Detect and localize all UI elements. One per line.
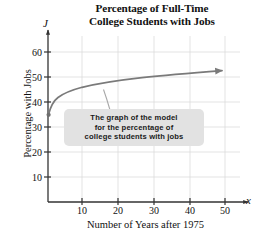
chart-figure: Percentage of Full-Time College Students… — [0, 0, 261, 239]
callout-line-2: for the percentage of — [67, 123, 201, 133]
curve-start-point — [47, 113, 51, 117]
callout-line-1: The graph of the model — [67, 113, 201, 123]
callout-line-3: college students with jobs — [67, 132, 201, 142]
callout-leader-line — [104, 90, 111, 111]
model-callout: The graph of the model for the percentag… — [64, 109, 204, 146]
